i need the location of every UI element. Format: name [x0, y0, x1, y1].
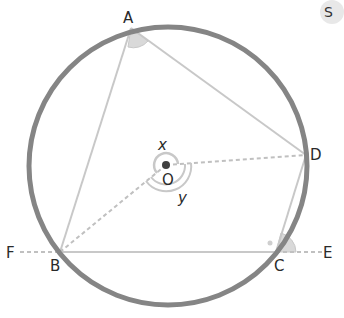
label-d: D	[310, 146, 322, 164]
corner-badge-icon: S	[320, 0, 344, 24]
label-a: A	[123, 9, 134, 27]
label-f: F	[6, 244, 15, 262]
label-o: O	[162, 171, 174, 189]
center-point-o	[162, 161, 170, 169]
angle-bcd-dot	[268, 241, 273, 246]
label-c: C	[274, 257, 284, 275]
label-angle-x: x	[157, 136, 167, 154]
label-angle-y: y	[177, 189, 188, 207]
label-b: B	[50, 257, 60, 275]
radius-ob	[60, 165, 166, 252]
radius-od	[166, 155, 306, 165]
label-e: E	[323, 244, 332, 262]
chord-ab	[60, 28, 131, 252]
